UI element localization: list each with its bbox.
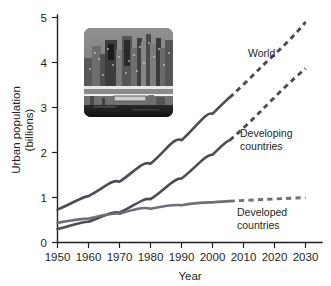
x-tick-label-1950: 1950	[45, 251, 71, 263]
series-developed-solid	[58, 201, 230, 223]
y-tick-label-3: 3	[41, 102, 47, 114]
y-axis-title: Urban population (billions)	[10, 86, 35, 174]
series-label-developed-line2: countries	[237, 219, 280, 231]
y-tick-label-4: 4	[41, 57, 48, 69]
y-tick-label-2: 2	[41, 147, 47, 159]
x-tick-label-2020: 2020	[262, 251, 288, 263]
y-axis-title-line1: Urban population	[10, 86, 22, 174]
urban-population-chart-figure: 0 1 2 3 4 5 1950 1960 1970 1980 1990 200…	[0, 0, 331, 286]
y-axis-title-line2: (billions)	[23, 108, 35, 151]
y-tick-group: 0 1 2 3 4 5	[41, 12, 58, 249]
y-tick-label-0: 0	[41, 237, 47, 249]
series-developed-projection	[230, 198, 306, 202]
city-skyline-photo-graphic	[84, 28, 173, 117]
series-label-developing-line2: countries	[240, 140, 283, 152]
city-skyline-photo	[84, 28, 173, 117]
x-tick-label-1960: 1960	[76, 251, 102, 263]
series-developed: Developed countries	[58, 198, 306, 231]
x-tick-group: 1950 1960 1970 1980 1990 2000 2010 2020 …	[45, 243, 319, 264]
series-world-projection	[230, 22, 306, 98]
series-label-world: World	[248, 47, 275, 59]
x-axis-title: Year	[178, 270, 201, 282]
series-label-developing-line1: Developing	[240, 127, 293, 139]
y-tick-label-5: 5	[41, 12, 47, 24]
x-tick-label-1970: 1970	[107, 251, 133, 263]
y-tick-label-1: 1	[41, 192, 47, 204]
x-tick-label-2000: 2000	[200, 251, 226, 263]
x-tick-label-1980: 1980	[138, 251, 164, 263]
x-tick-label-1990: 1990	[169, 251, 195, 263]
x-tick-label-2030: 2030	[293, 251, 319, 263]
x-tick-label-2010: 2010	[231, 251, 257, 263]
series-developing-solid	[58, 140, 230, 229]
series-label-developed-line1: Developed	[237, 206, 287, 218]
